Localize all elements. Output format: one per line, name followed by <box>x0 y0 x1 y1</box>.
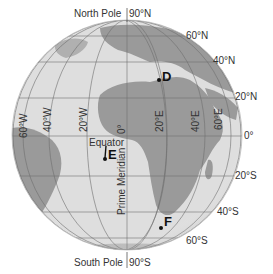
equator-label: Equator <box>89 137 125 148</box>
marker-d: D <box>162 69 171 84</box>
globe-diagram: North Pole 90°N South Pole 90°S 60°N 40°… <box>0 0 273 274</box>
marker-e: E <box>108 147 117 162</box>
marker-e-dot <box>103 157 107 161</box>
north-pole-label: North Pole <box>74 8 122 19</box>
lat-0: 0° <box>244 130 254 141</box>
lon-20w: 20°W <box>78 107 89 132</box>
north-pole-value: 90°N <box>129 8 151 19</box>
marker-d-dot <box>157 78 161 82</box>
lat-40s: 40°S <box>217 206 239 217</box>
south-pole-label: South Pole <box>74 257 123 268</box>
lat-60s: 60°S <box>186 235 208 246</box>
lon-20e: 20°E <box>154 110 165 132</box>
lon-40e: 40°E <box>190 110 201 132</box>
lat-60n: 60°N <box>186 30 208 41</box>
marker-f-dot <box>159 226 163 230</box>
lon-60e: 60°E <box>213 108 224 130</box>
lat-20n: 20°N <box>235 91 257 102</box>
lon-60w: 60°W <box>18 113 29 138</box>
lon-0: 0° <box>116 124 127 134</box>
prime-meridian-label: Prime Meridian <box>116 148 127 215</box>
lon-40w: 40°W <box>42 107 53 132</box>
south-pole-value: 90°S <box>129 257 151 268</box>
lat-40n: 40°N <box>213 55 235 66</box>
marker-f: F <box>164 214 172 229</box>
lat-20s: 20°S <box>235 170 257 181</box>
